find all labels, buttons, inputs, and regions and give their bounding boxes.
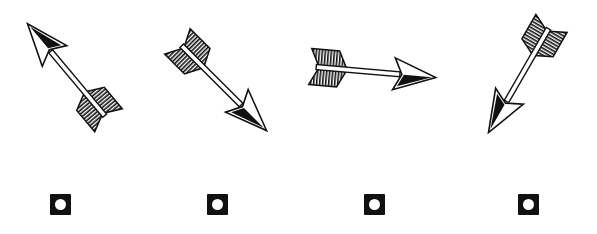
arrow-down-left-icon [468, 11, 571, 146]
radio-option-c[interactable] [364, 194, 385, 215]
radio-dot-icon [369, 199, 380, 210]
arrow-down-right-icon [160, 24, 283, 147]
arrow-up-left-icon [9, 8, 126, 136]
arrow-option-c [306, 44, 439, 99]
radio-dot-icon [55, 199, 66, 210]
radio-dot-icon [212, 199, 223, 210]
radio-option-d[interactable] [518, 194, 539, 215]
radio-dot-icon [523, 199, 534, 210]
arrow-option-b [160, 24, 283, 147]
arrow-option-a [9, 8, 126, 136]
radio-option-a[interactable] [50, 194, 71, 215]
radio-option-b[interactable] [207, 194, 228, 215]
arrow-right-icon [306, 44, 439, 99]
arrow-option-d [468, 11, 571, 146]
